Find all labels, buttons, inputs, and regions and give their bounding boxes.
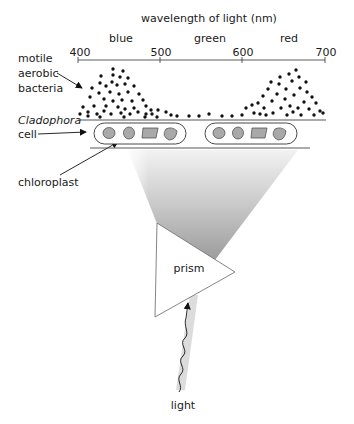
chloroplast-arrow <box>60 142 118 175</box>
label-blue: blue <box>109 32 133 45</box>
axis-title: wavelength of light (nm) <box>141 12 277 25</box>
tick-500: 500 <box>151 46 172 59</box>
cladophora-cell-right <box>205 123 297 144</box>
tick-400: 400 <box>70 46 91 59</box>
label-motile: motile <box>18 52 53 65</box>
label-cladophora: Cladophora <box>18 114 81 127</box>
label-bacteria: bacteria <box>18 82 63 95</box>
tick-600: 600 <box>233 46 254 59</box>
label-cell: cell <box>18 128 37 141</box>
bacteria-dots <box>78 67 324 118</box>
label-chloroplast: chloroplast <box>18 176 79 189</box>
label-green: green <box>194 32 226 45</box>
cladophora-cell-left <box>94 123 186 144</box>
tick-700: 700 <box>316 46 337 59</box>
label-prism: prism <box>173 262 204 275</box>
label-aerobic: aerobic <box>18 67 59 80</box>
wavelength-axis <box>78 57 325 63</box>
cell-arrow <box>38 132 86 134</box>
label-light: light <box>171 399 196 412</box>
label-red: red <box>280 32 298 45</box>
engelmann-experiment-diagram: wavelength of light (nm) blue green red … <box>0 0 354 424</box>
